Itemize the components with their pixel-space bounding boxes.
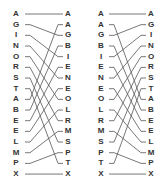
right-letter: A [65,9,71,18]
left-letter: G [13,20,19,29]
left-letter: P [13,158,19,167]
connection-line [109,110,146,142]
left-letter: R [98,116,104,125]
left-letter: E [13,116,19,125]
right-letter: B [65,41,71,50]
connection-line [25,67,63,120]
left-letter: X [13,169,19,178]
connection-line [109,67,146,120]
left-letter: E [98,84,104,93]
right-letter: E [148,126,154,135]
connection-line [109,35,146,56]
connection-line [25,131,63,152]
right-letter: A [65,20,71,29]
right-letter: S [148,73,154,82]
right-letter: N [148,41,154,50]
right-letter: I [67,52,69,61]
left-letter: M [98,126,105,135]
right-letter: R [65,116,71,125]
right-letter: E [65,84,71,93]
connection-line [109,46,146,110]
left-letter: A [13,94,19,103]
left-letter: S [98,137,104,146]
left-letter: G [98,30,104,39]
right-letter: M [148,148,155,157]
left-letter: O [13,52,19,61]
left-letter: O [98,94,104,103]
left-letter: N [98,73,104,82]
left-letter: X [98,169,104,178]
right-letter: G [148,20,154,29]
left-letter: A [98,9,104,18]
shuffle-diagram: AGINORSTABEELMPXAAGBIENEOLRMSPTXAAGBIENE… [0,0,160,185]
right-letter: A [148,94,154,103]
right-letter: M [65,126,72,135]
right-letter: A [148,9,154,18]
right-letter: R [148,62,154,71]
right-letter: S [65,137,71,146]
left-letter: T [99,158,104,167]
left-letter: S [13,73,19,82]
left-letter: L [99,105,104,114]
right-letter: N [65,73,71,82]
left-letter: B [98,41,104,50]
left-letter: A [13,9,19,18]
right-letter: E [148,116,154,125]
connection-line [25,35,63,56]
right-letter: I [150,30,152,39]
merge-right-diagram: AAGBIENEOLRMSPTXAGINORSTABEELMPX [98,9,155,178]
right-letter: B [148,105,154,114]
right-letter: T [149,84,154,93]
connection-line [109,131,146,152]
left-letter: M [13,148,20,157]
left-letter: P [98,148,104,157]
right-letter: O [148,52,154,61]
right-letter: T [66,158,71,167]
left-letter: N [13,41,19,50]
left-letter: I [100,52,102,61]
right-letter: G [65,30,71,39]
right-letter: X [148,169,154,178]
connection-line [25,110,63,142]
left-letter: T [14,84,19,93]
left-letter: E [13,126,19,135]
left-letter: A [98,20,104,29]
right-letter: E [65,62,71,71]
connection-line [25,46,63,110]
merge-left-diagram: AGINORSTABEELMPXAAGBIENEOLRMSPTX [13,9,72,178]
right-letter: L [149,137,154,146]
left-letter: B [13,105,19,114]
left-letter: R [13,62,19,71]
left-letter: I [15,30,17,39]
left-letter: E [98,62,104,71]
right-letter: P [148,158,154,167]
right-letter: P [65,148,71,157]
right-letter: X [65,169,71,178]
left-letter: L [14,137,19,146]
right-letter: L [66,105,71,114]
connection-canvas: AGINORSTABEELMPXAAGBIENEOLRMSPTXAAGBIENE… [0,0,160,185]
right-letter: O [65,94,71,103]
